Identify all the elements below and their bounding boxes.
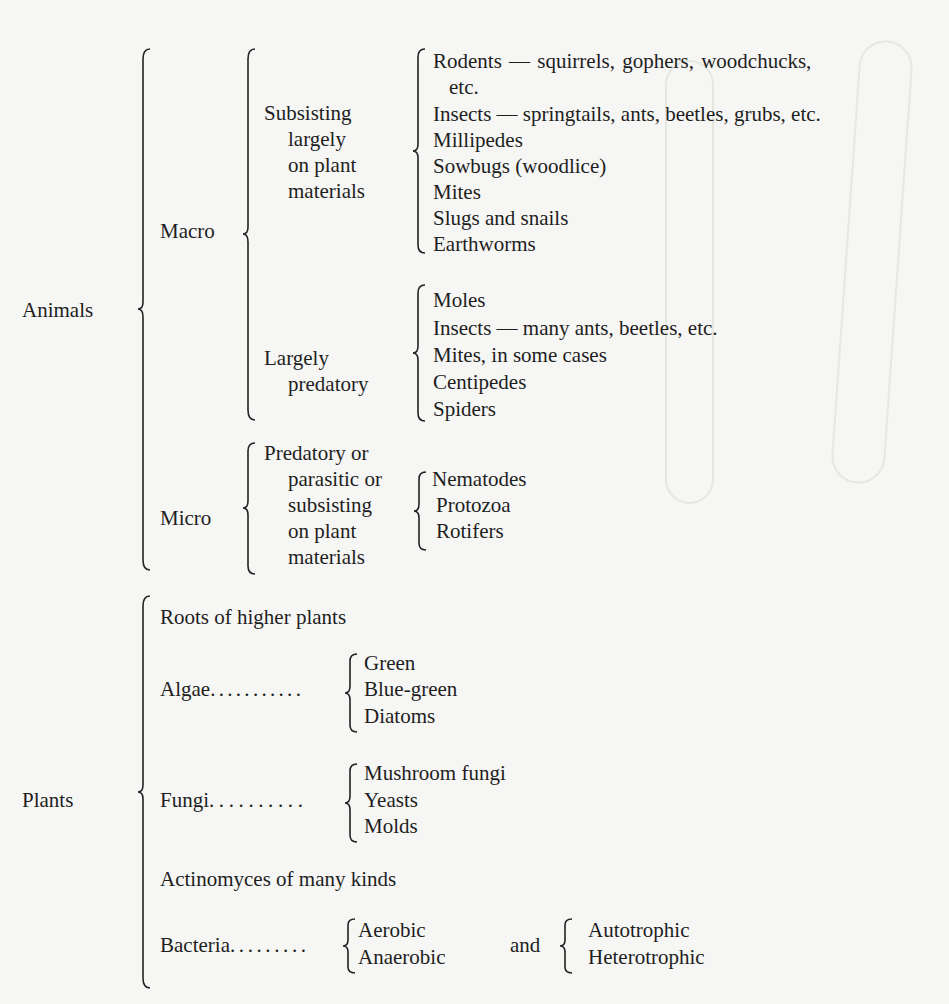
plants-label: Plants (22, 787, 73, 813)
list-item: Autotrophic (588, 917, 689, 943)
fungi-label: Fungi.......... (160, 787, 308, 813)
bacteria-leader-dots: ......... (230, 933, 310, 957)
list-item: Diatoms (364, 703, 435, 729)
animals-brace (138, 47, 152, 572)
list-item: Moles (433, 287, 486, 313)
micro-label: Micro (160, 505, 211, 531)
predators-brace (413, 283, 427, 423)
plant-feeders-label-line: materials (288, 178, 365, 204)
list-item: Slugs and snails (433, 205, 568, 231)
list-item: Green (364, 650, 415, 676)
list-item: Mites, in some cases (433, 342, 607, 368)
predators-label-line: predatory (288, 371, 368, 397)
list-item: Centipedes (433, 369, 526, 395)
list-item: Aerobic (358, 917, 426, 943)
list-item: Rodents — squirrels, gophers, woodchucks… (433, 48, 811, 74)
macro-label: Macro (160, 218, 215, 244)
list-item: Mites (433, 179, 481, 205)
list-item: etc. (449, 74, 479, 100)
micro-group-label-line: on plant (288, 518, 356, 544)
bacteria-oxygen-brace (343, 917, 357, 975)
list-item: Nematodes (432, 466, 526, 492)
list-item: Mushroom fungi (364, 760, 506, 786)
predators-label-line: Largely (264, 345, 329, 371)
list-item: Sowbugs (woodlice) (433, 153, 606, 179)
roots-item: Roots of higher plants (160, 604, 346, 630)
faint-earthworm-illustration (830, 39, 915, 486)
plants-brace (138, 594, 152, 990)
micro-group-label-line: Predatory or (264, 440, 368, 466)
list-item: Yeasts (364, 787, 418, 813)
plant-feeders-label-line: largely (288, 126, 346, 152)
list-item: Protozoa (436, 492, 511, 518)
micro-group-label-line: subsisting (288, 492, 372, 518)
fungi-label-text: Fungi (160, 788, 209, 812)
animals-label: Animals (22, 297, 93, 323)
plant-feeders-label-line: Subsisting (264, 100, 352, 126)
bacteria-nutrition-brace (560, 917, 574, 975)
plant-feeders-brace (413, 47, 427, 255)
list-item: Molds (364, 813, 418, 839)
micro-brace (243, 441, 257, 576)
algae-label: Algae........... (160, 676, 304, 702)
bacteria-label-text: Bacteria (160, 933, 230, 957)
list-item: Spiders (433, 396, 496, 422)
algae-leader-dots: ........... (210, 677, 304, 701)
micro-group-label-line: parasitic or (288, 466, 382, 492)
plant-feeders-label-line: on plant (288, 152, 356, 178)
list-item: Earthworms (433, 231, 536, 257)
fungi-leader-dots: .......... (209, 788, 308, 812)
list-item: Insects — springtails, ants, beetles, gr… (433, 101, 821, 127)
actinomyces-item: Actinomyces of many kinds (160, 866, 396, 892)
list-item: Anaerobic (358, 944, 445, 970)
macro-brace (243, 47, 257, 422)
list-item: Blue-green (364, 676, 457, 702)
fungi-brace (345, 762, 359, 844)
bacteria-label: Bacteria......... (160, 932, 310, 958)
list-item: Insects — many ants, beetles, etc. (433, 315, 718, 341)
micro-group-label-line: materials (288, 544, 365, 570)
list-item: Heterotrophic (588, 944, 705, 970)
micro-items-brace (414, 470, 428, 552)
list-item: Millipedes (433, 127, 523, 153)
algae-label-text: Algae (160, 677, 210, 701)
and-connector: and (510, 932, 540, 958)
list-item: Rotifers (436, 518, 504, 544)
algae-brace (345, 652, 359, 734)
